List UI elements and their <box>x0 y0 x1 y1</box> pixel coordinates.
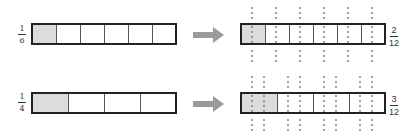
cell <box>129 25 153 43</box>
cell-shaded <box>33 25 57 43</box>
cell <box>69 94 105 112</box>
numerator: 1 <box>19 24 24 33</box>
fraction-bar <box>18 102 26 103</box>
fraction-two-twelfths: 2 12 <box>389 25 399 48</box>
cell <box>105 94 141 112</box>
arrow-right-icon <box>193 96 225 112</box>
fraction-one-sixth: 1 6 <box>18 24 26 45</box>
denominator: 12 <box>389 38 399 48</box>
dotted-split-lines <box>240 6 390 66</box>
fraction-three-twelfths: 3 12 <box>389 94 399 117</box>
arrow-right-icon <box>193 27 225 43</box>
cell <box>141 94 175 112</box>
cell <box>153 25 175 43</box>
dotted-split-lines <box>240 75 390 135</box>
bar-sixths <box>31 23 177 45</box>
numerator: 1 <box>19 92 24 101</box>
cell <box>105 25 129 43</box>
denominator: 6 <box>19 36 24 45</box>
denominator: 4 <box>19 104 24 113</box>
fraction-bar <box>390 105 398 106</box>
fraction-one-fourth: 1 4 <box>18 92 26 113</box>
denominator: 12 <box>389 107 399 117</box>
bar-fourths <box>31 92 177 114</box>
cell-shaded <box>33 94 69 112</box>
numerator: 3 <box>392 94 397 104</box>
cell <box>81 25 105 43</box>
fraction-bar <box>18 34 26 35</box>
fraction-bar <box>390 36 398 37</box>
numerator: 2 <box>392 25 397 35</box>
cell <box>57 25 81 43</box>
